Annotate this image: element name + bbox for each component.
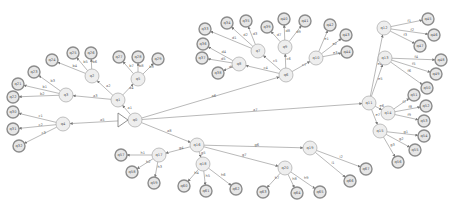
edge-label: a8 <box>167 129 172 133</box>
leaf-state-node[interactable]: q48 <box>435 54 447 66</box>
leaf-state-node[interactable]: q25 <box>67 47 79 59</box>
leaf-state-node[interactable]: q21 <box>12 78 24 90</box>
leaf-state-node[interactable]: q40 <box>278 13 290 25</box>
leaf-state-node[interactable]: q27 <box>113 51 125 63</box>
leaf-state-node[interactable]: q46 <box>428 29 440 41</box>
leaf-state-node[interactable]: q57 <box>115 149 127 161</box>
leaf-state-node[interactable]: q53 <box>418 115 430 127</box>
leaf-state-node[interactable]: q47 <box>414 40 426 52</box>
edge-label: c1 <box>39 114 43 118</box>
leaf-state-node[interactable]: q29 <box>152 53 164 65</box>
leaf-state-node[interactable]: q26 <box>85 47 97 59</box>
edge-label: f4 <box>414 55 418 59</box>
leaf-state-node[interactable]: q30 <box>7 106 19 118</box>
node-label: q42 <box>327 23 334 27</box>
edge <box>395 115 418 120</box>
leaf-state-node[interactable]: q67 <box>360 163 372 175</box>
state-node[interactable]: q3 <box>59 88 73 102</box>
state-node[interactable]: q4 <box>56 117 70 131</box>
leaf-state-node[interactable]: q39 <box>261 21 273 33</box>
state-node[interactable]: q6 <box>279 68 293 82</box>
edge <box>19 113 56 122</box>
state-node[interactable]: q20 <box>278 161 292 175</box>
state-node[interactable]: q17 <box>152 148 166 162</box>
edge-label: i1 <box>331 161 334 165</box>
leaf-state-node[interactable]: q35 <box>240 15 252 27</box>
node-label: q10 <box>313 56 321 60</box>
edge-label: b2 <box>40 92 45 96</box>
node-label: q60 <box>181 184 189 188</box>
leaf-state-node[interactable]: q61 <box>200 185 212 197</box>
leaf-state-node[interactable]: q59 <box>148 177 160 189</box>
leaf-state-node[interactable]: q62 <box>230 183 242 195</box>
leaf-state-node[interactable]: q65 <box>314 186 326 198</box>
edge-label: b5 <box>83 60 88 64</box>
node-label: q4 <box>61 122 66 126</box>
edge-label: c4 <box>264 66 269 70</box>
state-node[interactable]: q18 <box>196 157 210 171</box>
state-node[interactable]: q1 <box>111 93 125 107</box>
leaf-state-node[interactable]: q43 <box>340 29 352 41</box>
leaf-state-node[interactable]: q28 <box>132 51 144 63</box>
edge-label: e7 <box>376 113 381 117</box>
leaf-state-node[interactable]: q63 <box>257 186 269 198</box>
state-node[interactable]: q16 <box>190 138 204 152</box>
node-label: q9 <box>283 45 288 49</box>
leaf-state-node[interactable]: q55 <box>409 144 421 156</box>
state-node[interactable]: q10 <box>309 51 323 65</box>
node-label: q38 <box>215 71 223 75</box>
leaf-state-node[interactable]: q49 <box>430 68 442 80</box>
state-node[interactable]: q11 <box>362 96 376 110</box>
edge-label: h8 <box>292 177 297 181</box>
leaf-state-node[interactable]: q36 <box>197 38 209 50</box>
leaf-state-node[interactable]: q37 <box>196 52 208 64</box>
node-label: q31 <box>10 127 17 131</box>
edge <box>137 159 153 169</box>
leaf-state-node[interactable]: q56 <box>392 156 404 168</box>
leaf-state-node[interactable]: q23 <box>28 66 40 78</box>
edge-label: d7 <box>277 33 282 37</box>
leaf-state-node[interactable]: q22 <box>7 91 19 103</box>
leaf-state-node[interactable]: q50 <box>421 82 433 94</box>
state-node[interactable]: q13 <box>378 51 392 65</box>
state-node[interactable]: q7 <box>251 44 265 58</box>
edge-label: g3 <box>390 143 395 147</box>
leaf-state-node[interactable]: q64 <box>291 187 303 199</box>
leaf-state-node[interactable]: q54 <box>418 130 430 142</box>
node-label: q3 <box>64 93 69 97</box>
state-node[interactable]: q9 <box>278 40 292 54</box>
node-label: q37 <box>199 56 206 60</box>
state-node[interactable]: q2 <box>85 69 99 83</box>
leaf-state-node[interactable]: q52 <box>420 100 432 112</box>
leaf-state-node[interactable]: q60 <box>178 180 190 192</box>
node-label: q46 <box>431 33 439 37</box>
edge-label: b6 <box>92 60 97 64</box>
leaf-state-node[interactable]: q42 <box>324 19 336 31</box>
node-label: q55 <box>412 148 419 152</box>
edge-label: h2 <box>146 160 151 164</box>
leaf-state-node[interactable]: q32 <box>13 140 25 152</box>
state-node[interactable]: q14 <box>381 106 395 120</box>
leaf-state-node[interactable]: q51 <box>408 89 420 101</box>
leaf-state-node[interactable]: q33 <box>199 23 211 35</box>
leaf-state-node[interactable]: q31 <box>7 123 19 135</box>
leaf-state-node[interactable]: q34 <box>221 17 233 29</box>
edge <box>372 110 378 125</box>
leaf-state-node[interactable]: q66 <box>344 175 356 187</box>
leaf-state-node[interactable]: q24 <box>46 54 58 66</box>
node-label: q52 <box>423 104 430 108</box>
state-node[interactable]: q15 <box>373 124 387 138</box>
edge <box>142 104 362 120</box>
leaf-state-node[interactable]: q44 <box>341 46 353 58</box>
state-node[interactable]: q19 <box>303 141 317 155</box>
state-node[interactable]: q12 <box>377 21 391 35</box>
edge-label: g4 <box>179 146 184 150</box>
state-node[interactable]: q5 <box>131 72 145 86</box>
leaf-state-node[interactable]: q58 <box>126 166 138 178</box>
edge-label: d8 <box>285 29 290 33</box>
state-node[interactable]: q8 <box>232 57 246 71</box>
leaf-state-node[interactable]: q38 <box>212 67 224 79</box>
leaf-state-node[interactable]: q45 <box>422 13 434 25</box>
leaf-state-node[interactable]: q41 <box>299 15 311 27</box>
state-node[interactable]: q0 <box>128 113 142 127</box>
